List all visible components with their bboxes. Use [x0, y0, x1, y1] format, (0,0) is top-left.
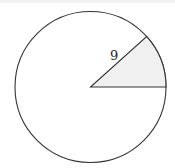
circle-sector-diagram: 9	[0, 0, 175, 168]
radius-label: 9	[110, 48, 118, 63]
